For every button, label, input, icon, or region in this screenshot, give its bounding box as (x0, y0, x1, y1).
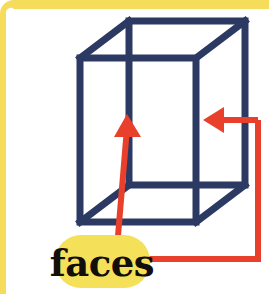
border-top-band (14, 0, 269, 9)
diagram-canvas: faces (0, 0, 269, 294)
border-left-band (0, 14, 6, 294)
label-pill-text: faces (50, 241, 154, 285)
faces-label[interactable]: faces (50, 235, 154, 288)
diagram-svg: faces (0, 0, 269, 294)
